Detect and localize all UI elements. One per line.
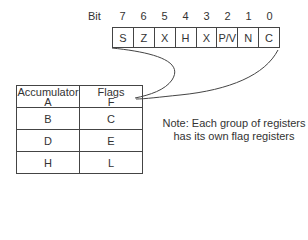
register-h: H (17, 152, 80, 174)
flags-label: Flags (80, 87, 142, 97)
register-table: Accumulator A Flags F B C D E H L (16, 85, 143, 174)
note-line-2: has its own flag registers (160, 130, 308, 143)
accumulator-register: A (17, 97, 79, 107)
register-e: E (80, 130, 143, 152)
accumulator-label: Accumulator (17, 87, 79, 97)
table-row: H L (17, 152, 143, 174)
flags-register: F (80, 97, 142, 107)
register-d: D (17, 130, 80, 152)
table-row: D E (17, 130, 143, 152)
register-b: B (17, 108, 80, 130)
table-row: Accumulator A Flags F (17, 86, 143, 108)
flags-cell: Flags F (80, 86, 143, 108)
register-l: L (80, 152, 143, 174)
register-c: C (80, 108, 143, 130)
note-text: Note: Each group of registers has its ow… (160, 117, 308, 143)
note-line-1: Note: Each group of registers (160, 117, 308, 130)
accumulator-cell: Accumulator A (17, 86, 80, 108)
table-row: B C (17, 108, 143, 130)
